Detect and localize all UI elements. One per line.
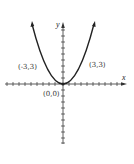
point-label-right: (3,3) — [89, 61, 106, 69]
curve-right-arrow-icon — [92, 21, 96, 27]
point-label-left: (-3,3) — [18, 63, 37, 71]
y-axis-arrow-icon — [61, 22, 65, 28]
x-axis-label: x — [121, 73, 126, 82]
parabola-graph: y x (-3,3) (3,3) (0,0) — [0, 0, 134, 164]
origin-point — [61, 82, 64, 85]
point-label-origin: (0,0) — [43, 90, 60, 98]
y-axis-label: y — [55, 20, 60, 29]
curve-left-arrow-icon — [31, 21, 35, 27]
x-axis-arrow-icon — [121, 82, 127, 86]
